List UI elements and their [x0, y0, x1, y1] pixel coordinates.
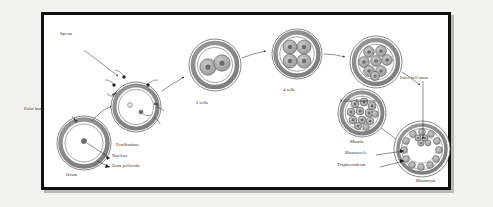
- arrow-fertilization-to-2cells: [162, 77, 184, 91]
- label-sperm: Sperm: [60, 32, 72, 36]
- arrow-2cells-to-4cells: [242, 51, 266, 58]
- stage-fertilization: [105, 70, 164, 132]
- label-2-cells: 2 cells: [196, 101, 208, 106]
- arrow-4cells-to-8cells: [324, 54, 345, 57]
- diagram-canvas: Sperm Polar body Ovum Nucleus Zona pellu…: [0, 0, 493, 207]
- diagram-artwork: [44, 15, 448, 187]
- label-blastocyst: Blastocyst: [416, 179, 435, 184]
- label-blastocoele: Blastocoele: [345, 151, 367, 155]
- stage-morula: [338, 89, 386, 137]
- label-morula: Morula: [350, 140, 364, 145]
- label-inner-cell-mass: Inner cell mass: [400, 76, 428, 80]
- stage-ovum: [57, 116, 111, 170]
- leader-zona-head: [105, 164, 110, 168]
- label-ovum: Ovum: [66, 173, 77, 177]
- stage-four-cells: [272, 29, 322, 79]
- diagram-frame: Sperm Polar body Ovum Nucleus Zona pellu…: [41, 12, 451, 190]
- label-zona-pellucida: Zona pellucida: [112, 164, 140, 168]
- label-polar-body: Polar body: [24, 107, 44, 111]
- leader-sperm: [84, 50, 118, 76]
- label-nucleus: Nucleus: [112, 154, 127, 158]
- stage-two-cells: [189, 39, 241, 91]
- stage-eight-cells: [350, 36, 402, 88]
- label-8-cells: 8 cells - Blastomere: [340, 99, 377, 104]
- label-fertilization: Fertilization: [116, 143, 138, 148]
- stage-blastocyst: [394, 121, 450, 177]
- label-trophectoderm: Trophectoderm: [337, 163, 365, 167]
- label-4-cells: 4 cells: [283, 88, 295, 93]
- arrow-morula-to-blastocyst: [381, 128, 398, 141]
